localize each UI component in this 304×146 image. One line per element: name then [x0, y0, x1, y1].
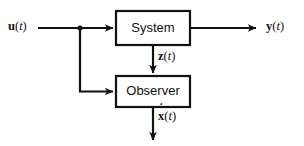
block-diagram-canvas: System Observer u(t) y(t) z(t) ˙x(t) [0, 0, 304, 146]
signal-z-paren-close: ) [171, 49, 175, 63]
signal-label-u: u(t) [8, 20, 27, 33]
signal-label-xhat: ˙x(t) [158, 110, 176, 123]
signal-u-symbol: u [8, 19, 15, 33]
block-observer-label: Observer [126, 83, 180, 98]
signal-label-z: z(t) [158, 50, 175, 63]
wire-u-branch-to-observer [80, 28, 113, 92]
signal-xhat-symbol-wrap: ˙x [158, 110, 164, 123]
signal-label-y: y(t) [266, 20, 284, 33]
signal-xhat-diacritic: ˙ [159, 103, 163, 115]
block-system-label: System [131, 20, 174, 35]
signal-u-paren-close: ) [23, 19, 27, 33]
diagram-svg: System Observer [0, 0, 304, 146]
signal-xhat-paren-close: ) [172, 109, 176, 123]
signal-y-paren-close: ) [280, 19, 284, 33]
